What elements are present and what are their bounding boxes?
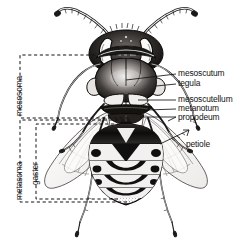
- label-propodeum: propodeum: [178, 113, 219, 122]
- label-tegula: tegula: [178, 79, 200, 88]
- label-gaster: gaster: [30, 162, 40, 185]
- label-mesosoma: mesosoma: [14, 76, 24, 116]
- label-mesoscutum: mesoscutum: [178, 69, 224, 78]
- label-petiole: petiole: [186, 140, 210, 149]
- wasp-anatomy-figure: mesoscutum tegula mesoscutellum metanotu…: [0, 0, 252, 246]
- wasp-illustration: [0, 0, 252, 246]
- label-metasoma: metasoma: [14, 162, 24, 200]
